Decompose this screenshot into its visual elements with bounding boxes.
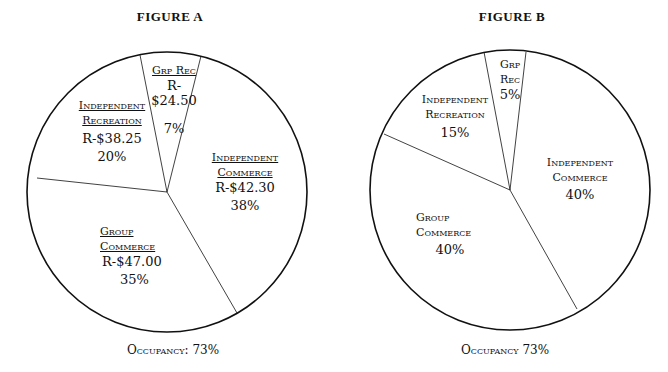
fig-b-occupancy: Occupancy 73%	[405, 343, 605, 357]
fig-b-slice-independent-recreation: Independent Recreation 15%	[415, 92, 495, 140]
fig-b-slice-independent-commerce: Independent Commerce 40%	[540, 155, 620, 202]
fig-a-occupancy: Occupancy: 73%	[73, 343, 273, 357]
fig-a-slice-group-commerce: Group Commerce R-$47.00 35%	[88, 224, 168, 287]
fig-b-slice-grp-rec: Grp Rec 5%	[490, 57, 530, 102]
fig-b-slice-group-commerce: Group Commerce 40%	[410, 210, 490, 257]
fig-a-slice-independent-commerce: Independent Commerce R-$42.30 38%	[205, 150, 285, 213]
fig-a-slice-grp-rec: Grp Rec R- $24.50 7%	[144, 63, 204, 136]
fig-a-slice-independent-recreation: Independent Recreation R-$38.25 20%	[72, 98, 152, 164]
